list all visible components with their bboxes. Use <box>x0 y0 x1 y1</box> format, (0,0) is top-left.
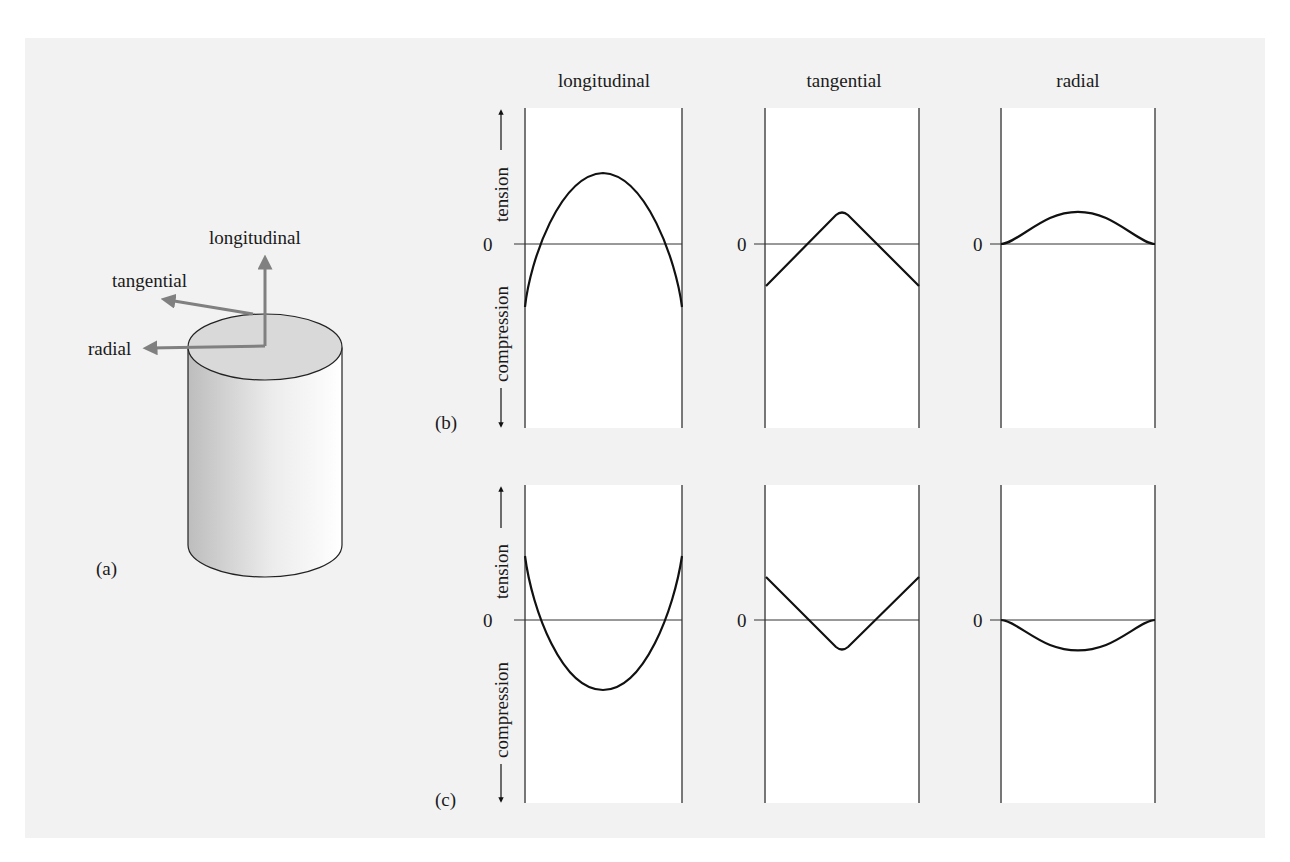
zero-label-b-longitudinal: 0 <box>483 235 493 254</box>
stress-plots <box>0 0 1290 862</box>
zero-label-c-radial: 0 <box>973 611 983 630</box>
curve-c-radial <box>1001 620 1155 650</box>
zero-label-b-tangential: 0 <box>737 235 747 254</box>
curve-b-longitudinal <box>525 173 682 307</box>
tension-label-c: tension <box>491 544 513 599</box>
tension-label-b: tension <box>491 167 513 222</box>
curve-c-longitudinal <box>525 556 682 690</box>
compression-label-b: compression <box>491 286 513 382</box>
panel-label-b: (b) <box>435 413 457 432</box>
compression-label-c: compression <box>491 662 513 758</box>
zero-label-c-longitudinal: 0 <box>483 611 493 630</box>
zero-label-c-tangential: 0 <box>737 611 747 630</box>
curve-b-radial <box>1001 212 1155 244</box>
curve-c-tangential <box>766 577 919 650</box>
zero-label-b-radial: 0 <box>973 235 983 254</box>
panel-label-c: (c) <box>435 790 456 809</box>
zero-lines <box>514 244 1155 620</box>
stress-curves <box>525 173 1155 690</box>
curve-b-tangential <box>766 213 919 287</box>
